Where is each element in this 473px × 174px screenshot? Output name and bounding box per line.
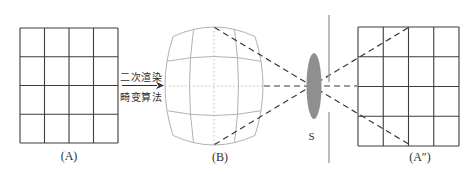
distortion-correction-diagram: 二次渲染 畸变算法 S (A) (B) (A [0,0,473,174]
grid-a-label: (A) [61,149,78,163]
arrow-text-bottom: 畸变算法 [120,91,162,103]
predistorted-grid-b [165,27,263,145]
grid-b-center-lines [165,27,263,145]
lens-label: S [308,130,314,142]
grid-b-label: (B) [212,150,228,164]
process-arrow: 二次渲染 畸变算法 [120,71,164,103]
output-grid-a2 [358,27,459,146]
arrow-text-top: 二次渲染 [120,71,162,83]
grid-a2-label: (A″) [409,150,431,164]
source-grid-a [20,28,118,143]
grid-a-lines [20,28,118,143]
lens-icon [307,53,322,119]
diagram-canvas: 二次渲染 畸变算法 S (A) (B) (A [0,0,473,174]
grid-a2-lines [358,27,459,146]
